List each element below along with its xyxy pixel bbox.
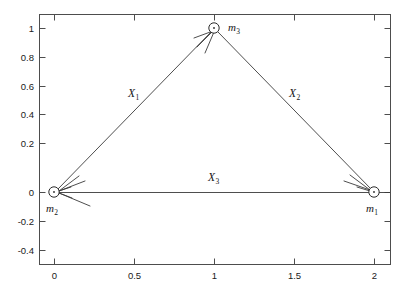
edge-label-x1-sub: 1 <box>135 93 139 102</box>
triangle-edges <box>50 32 390 193</box>
edge-label-x2-sub: 2 <box>296 93 300 102</box>
ytick-label-1: 1 <box>8 24 34 34</box>
edge-label-x3: X3 <box>208 172 219 184</box>
edge-label-x1: X1 <box>128 88 139 100</box>
mass-label-m3-text: m <box>228 21 236 33</box>
arrow-m2-lower-head <box>59 193 72 198</box>
marker-m2-center <box>53 191 55 193</box>
y-axis-ticks <box>40 29 391 251</box>
mass-label-m2-sub: 2 <box>54 208 58 217</box>
ytick-label-neg0p4: -0.4 <box>4 246 34 256</box>
marker-m1-center <box>373 191 375 193</box>
arrow-m1-mid <box>344 181 370 190</box>
edge-x1-line <box>58 32 211 189</box>
mass-label-m2: m2 <box>46 203 58 214</box>
edge-label-x3-sub: 3 <box>215 177 219 186</box>
x-axis-ticks <box>55 15 375 265</box>
ytick-label-0p2: 0.2 <box>8 139 34 149</box>
mass-label-m3: m3 <box>228 22 240 33</box>
mass-label-m1: m1 <box>366 203 378 214</box>
arrow-m2-horizontal-head <box>59 187 71 191</box>
edge-label-x2: X2 <box>289 88 300 100</box>
axes-frame <box>40 15 391 265</box>
mass-label-m2-text: m <box>46 202 54 214</box>
ytick-label-0p6: 0.6 <box>8 82 34 92</box>
figure-canvas: 1 0.8 0.6 0.4 0.2 0 -0.2 -0.4 0 0.5 1 1.… <box>0 0 403 302</box>
ytick-label-0: 0 <box>8 188 34 198</box>
axes-box <box>40 15 391 265</box>
xtick-label-2: 2 <box>360 271 389 281</box>
ytick-label-neg0p2: -0.2 <box>4 217 34 227</box>
ytick-label-0p8: 0.8 <box>8 53 34 63</box>
edge-label-x1-text: X <box>128 87 135 99</box>
edge-label-x3-text: X <box>208 171 215 183</box>
xtick-label-1: 1 <box>200 271 229 281</box>
xtick-label-1p5: 1.5 <box>280 271 309 281</box>
arrow-m3-down <box>205 32 214 53</box>
plot-svg <box>0 0 403 302</box>
mass-label-m1-text: m <box>366 202 374 214</box>
edge-label-x2-text: X <box>289 87 296 99</box>
mass-label-m1-sub: 1 <box>374 208 378 217</box>
marker-m3-center <box>213 27 215 29</box>
xtick-label-0p5: 0.5 <box>120 271 149 281</box>
mass-label-m3-sub: 3 <box>236 27 240 36</box>
edge-x2-line <box>218 32 371 189</box>
ytick-label-0p4: 0.4 <box>8 110 34 120</box>
xtick-label-0: 0 <box>40 271 69 281</box>
